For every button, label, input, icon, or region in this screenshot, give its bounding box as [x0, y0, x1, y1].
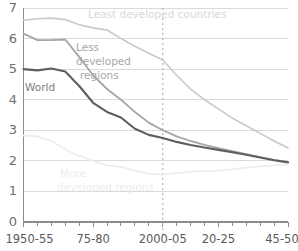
least-developed-label: Least developed countries	[88, 8, 227, 20]
x-tick-label-1: 75-80	[76, 232, 109, 246]
fertility-rate-line-chart: 01234567 1950-5575-802000-0520-2545-50 L…	[0, 0, 298, 251]
data-series-lines	[24, 18, 289, 175]
y-tick-label-0: 0	[9, 214, 17, 229]
x-tick-label-3: 20-25	[202, 232, 235, 246]
series-inline-labels: Least developed countriesLessdevelopedre…	[25, 8, 227, 193]
y-tick-label-5: 5	[9, 61, 17, 76]
x-tick-label-4: 45-50	[265, 232, 298, 246]
x-axis-tick-labels: 1950-5575-802000-0520-2545-50	[5, 232, 298, 246]
axis-tick-marks	[24, 222, 289, 227]
world-label: World	[25, 81, 55, 93]
y-tick-label-4: 4	[9, 92, 17, 107]
gridlines	[24, 8, 289, 191]
x-tick-label-2: 2000-05	[139, 232, 187, 246]
more-developed-label-2: developed regions	[57, 181, 154, 193]
y-tick-label-2: 2	[9, 153, 17, 168]
chart-canvas: 01234567 1950-5575-802000-0520-2545-50 L…	[0, 0, 298, 251]
y-tick-label-7: 7	[9, 0, 17, 15]
less-developed-label-1: Less	[76, 41, 99, 53]
x-tick-label-0: 1950-55	[5, 232, 53, 246]
y-tick-label-1: 1	[9, 183, 17, 198]
series-line-0	[24, 18, 289, 148]
y-tick-label-3: 3	[9, 122, 17, 137]
y-axis-tick-labels: 01234567	[9, 0, 17, 229]
less-developed-label-3: regions	[80, 69, 119, 81]
series-line-1	[24, 34, 289, 162]
more-developed-label-1: More	[60, 167, 86, 179]
y-tick-label-6: 6	[9, 31, 17, 46]
less-developed-label-2: developed	[76, 55, 131, 67]
